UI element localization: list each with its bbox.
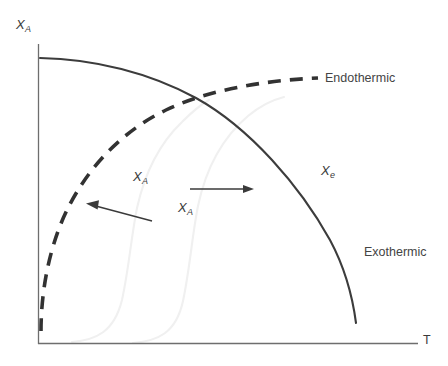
xa-annotation-2-base: X xyxy=(178,200,187,215)
y-axis-label-sub: A xyxy=(25,24,31,34)
y-axis-label: XA xyxy=(16,18,31,34)
xa-annotation-1-sub: A xyxy=(142,176,148,186)
xe-annotation: Xe xyxy=(321,164,335,180)
xa-annotation-2: XA xyxy=(178,201,193,217)
right-arrow xyxy=(190,185,254,193)
xa-annotation-1-base: X xyxy=(133,169,142,184)
xa-conversion-curve-1 xyxy=(72,100,209,342)
xa-annotation-2-sub: A xyxy=(187,207,193,217)
xa-conversion-curve-2 xyxy=(133,97,284,343)
equilibrium-conversion-chart: XA T Endothermic Exothermic Xe XA XA xyxy=(0,0,448,366)
y-axis-label-base: X xyxy=(16,17,25,32)
xa-annotation-1: XA xyxy=(133,170,148,186)
left-arrow xyxy=(86,200,152,221)
xe-annotation-sub: e xyxy=(330,170,335,180)
exothermic-curve xyxy=(40,58,356,323)
x-axis-label: T xyxy=(423,334,431,347)
exothermic-series-label: Exothermic xyxy=(364,246,427,259)
endothermic-series-label: Endothermic xyxy=(325,72,395,85)
chart-plot-area xyxy=(0,0,448,366)
xe-annotation-base: X xyxy=(321,163,330,178)
